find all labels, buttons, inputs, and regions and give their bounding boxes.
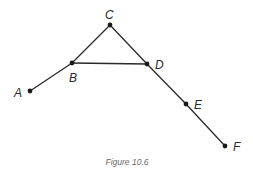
edge-b-c [72,25,110,63]
nodes-group [28,23,228,149]
figure-caption: Figure 10.6 [106,157,149,167]
graph-diagram: ABCDEF Figure 10.6 [0,0,253,173]
node-a-label: A [13,86,22,100]
node-b-dot [70,61,75,66]
edge-e-f [186,104,225,146]
node-e-dot [184,102,189,107]
node-f-label: F [233,140,241,154]
node-c-dot [108,23,113,28]
edge-c-d [110,25,147,64]
node-b-label: B [69,71,77,85]
node-e-label: E [194,98,203,112]
node-a-dot [28,89,33,94]
edge-d-e [147,64,186,104]
node-d-label: D [155,58,164,72]
node-c-label: C [105,8,114,22]
node-d-dot [145,62,150,67]
node-f-dot [223,144,228,149]
labels-group: ABCDEF [13,8,241,154]
edge-b-d [72,63,147,64]
edges-group [30,25,225,146]
edge-a-b [30,63,72,91]
